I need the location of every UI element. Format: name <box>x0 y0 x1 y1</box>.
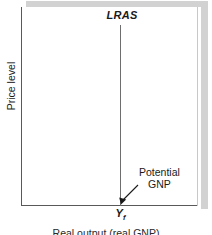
callout-arrow-icon <box>114 183 140 207</box>
x-axis-line <box>21 205 198 206</box>
x-axis-caption-text: Real output (real GNP) <box>0 228 212 235</box>
potential-gnp-annotation: Potential GNP <box>139 166 180 190</box>
y-axis-label: Price level <box>5 50 17 122</box>
lras-curve <box>120 25 121 206</box>
x-axis-tick-label: Yf <box>100 207 141 222</box>
lras-curve-label: LRAS <box>96 9 148 21</box>
lras-figure: LRAS Price level Potential GNP Yf Real o… <box>0 0 212 235</box>
figure-shadow-right <box>201 1 208 209</box>
x-axis-caption-clipped: Real output (real GNP) <box>0 228 212 235</box>
plot-frame-right <box>197 7 198 206</box>
y-axis-line <box>21 7 22 206</box>
annotation-line-1: Potential <box>139 166 180 178</box>
x-tick-subscript: f <box>123 213 126 222</box>
x-tick-base: Y <box>116 207 123 219</box>
annotation-line-2: GNP <box>139 178 180 190</box>
